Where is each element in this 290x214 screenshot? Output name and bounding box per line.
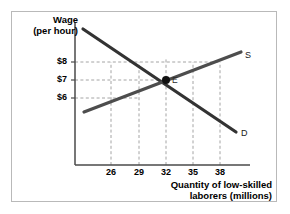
supply-curve-label: S: [245, 50, 251, 60]
y-tick-label-7: $7: [45, 74, 67, 84]
y-tick-label-8: $8: [45, 56, 67, 66]
demand-curve: [83, 29, 236, 132]
axis-lines: [75, 22, 250, 165]
x-tick-label-38: 38: [209, 167, 231, 177]
x-tick-label-26: 26: [100, 167, 122, 177]
y-tick-label-6: $6: [45, 92, 67, 102]
demand-curve-label: D: [241, 128, 248, 138]
x-axis-title: Quantity of low-skilled laborers (millio…: [120, 179, 272, 201]
x-tick-label-32: 32: [155, 167, 177, 177]
y-axis-title: Wage (per hour): [16, 14, 78, 36]
x-tick-label-35: 35: [182, 167, 204, 177]
supply-curve: [84, 52, 241, 112]
equilibrium-point: [162, 76, 170, 84]
equilibrium-point-label: E: [172, 75, 178, 85]
x-tick-label-29: 29: [128, 167, 150, 177]
